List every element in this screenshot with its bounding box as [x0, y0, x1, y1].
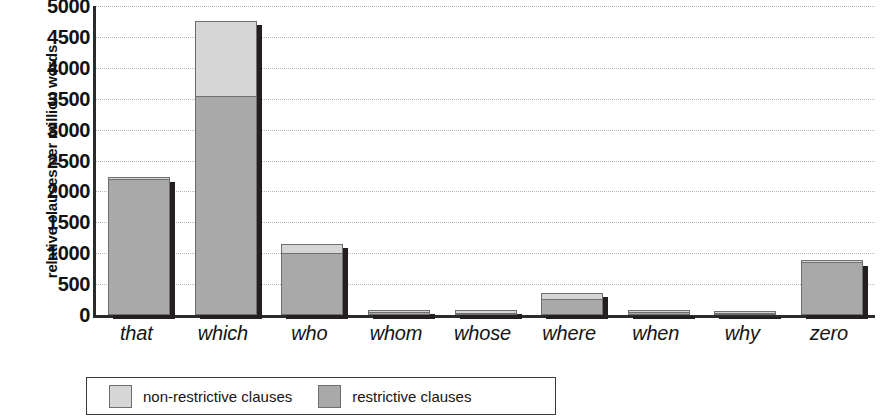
bar-segment-non-restrictive[interactable] — [195, 21, 257, 95]
stacked-bar[interactable] — [108, 177, 170, 315]
x-axis-tick-label: where — [526, 322, 613, 352]
legend-swatch-nonrestrictive — [109, 385, 132, 408]
stacked-bar[interactable] — [455, 310, 517, 315]
chart-title-cropped — [95, 0, 735, 2]
chart-legend: non-restrictive clausesrestrictive claus… — [86, 377, 556, 415]
y-axis-tick-labels: 5000450040003500300025002000150010005000 — [28, 0, 90, 320]
x-axis-tick-label: why — [699, 322, 786, 352]
stacked-bar[interactable] — [714, 311, 776, 315]
bar-slot — [615, 6, 702, 315]
bar-shadow — [719, 317, 781, 319]
bar-segment-restrictive[interactable] — [281, 253, 343, 315]
bar-segment-restrictive[interactable] — [195, 96, 257, 315]
x-axis-tick-labels: thatwhichwhowhomwhosewherewhenwhyzero — [93, 322, 872, 352]
legend-label: non-restrictive clauses — [143, 388, 292, 405]
x-axis-tick-label: that — [93, 322, 180, 352]
bar-chart-figure: relative clauses per million words 50004… — [0, 0, 884, 420]
bar-slot — [269, 6, 356, 315]
y-axis-tick-label: 0 — [28, 305, 90, 325]
x-axis-tick-label: who — [266, 322, 353, 352]
bar-segment-restrictive[interactable] — [541, 299, 603, 315]
bar-slot — [442, 6, 529, 315]
y-axis-tick-label: 1000 — [28, 243, 90, 263]
bar-segment-restrictive[interactable] — [368, 312, 430, 315]
bar-segment-non-restrictive[interactable] — [281, 244, 343, 253]
y-axis-tick-label: 4000 — [28, 58, 90, 78]
bar-segment-restrictive[interactable] — [714, 313, 776, 315]
y-axis-tick-label: 4500 — [28, 27, 90, 47]
bar-series-group — [96, 6, 875, 315]
x-axis-tick-label: when — [612, 322, 699, 352]
stacked-bar[interactable] — [628, 310, 690, 315]
bar-slot — [356, 6, 443, 315]
y-axis-tick-label: 3000 — [28, 120, 90, 140]
stacked-bar[interactable] — [801, 260, 863, 315]
plot-area — [93, 6, 875, 318]
y-axis-tick-label: 500 — [28, 274, 90, 294]
bar-slot — [789, 6, 876, 315]
y-axis-tick-label: 2500 — [28, 151, 90, 171]
bar-segment-restrictive[interactable] — [455, 313, 517, 315]
y-axis-tick-label: 2000 — [28, 181, 90, 201]
legend-entry[interactable]: non-restrictive clauses — [109, 385, 292, 408]
bar-shadow — [460, 314, 522, 319]
legend-swatch-restrictive — [318, 385, 341, 408]
stacked-bar[interactable] — [195, 21, 257, 315]
x-axis-tick-label: zero — [786, 322, 873, 352]
legend-label: restrictive clauses — [352, 388, 471, 405]
bar-shadow — [633, 316, 695, 319]
bar-slot — [529, 6, 616, 315]
bar-slot — [183, 6, 270, 315]
x-axis-tick-label: which — [180, 322, 267, 352]
bar-segment-restrictive[interactable] — [801, 262, 863, 315]
x-axis-tick-label: whose — [439, 322, 526, 352]
legend-entry[interactable]: restrictive clauses — [318, 385, 471, 408]
stacked-bar[interactable] — [368, 310, 430, 315]
y-axis-tick-label: 3500 — [28, 89, 90, 109]
bar-segment-restrictive[interactable] — [628, 312, 690, 315]
y-axis-tick-label: 5000 — [28, 0, 90, 16]
bar-segment-restrictive[interactable] — [108, 179, 170, 315]
stacked-bar[interactable] — [281, 244, 343, 315]
bar-slot — [702, 6, 789, 315]
stacked-bar[interactable] — [541, 293, 603, 315]
y-axis-tick-label: 1500 — [28, 212, 90, 232]
x-axis-tick-label: whom — [353, 322, 440, 352]
bar-slot — [96, 6, 183, 315]
